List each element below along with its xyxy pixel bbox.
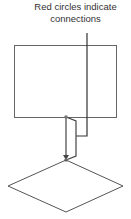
annotation-leader-line [76, 33, 87, 136]
decision-diamond [8, 160, 123, 212]
diagram-canvas [0, 0, 131, 219]
connection-point-top [64, 115, 68, 119]
process-rectangle [15, 46, 117, 118]
connection-bracket [66, 117, 76, 160]
